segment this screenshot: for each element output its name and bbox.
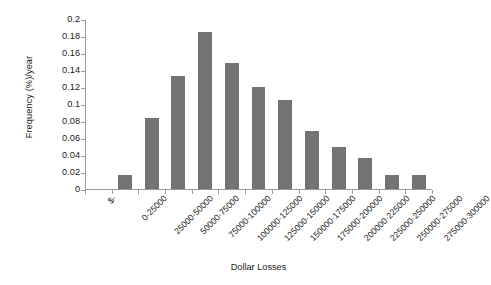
y-axis-tick-label: 0.18: [30, 32, 80, 41]
plot-area: [85, 20, 432, 190]
y-axis-tick-label: 0.16: [30, 49, 80, 58]
bar: [305, 131, 319, 189]
y-axis-tick-label: 0.14: [30, 66, 80, 75]
bar: [225, 63, 239, 189]
y-axis-tick-label: 0.08: [30, 117, 80, 126]
bar: [145, 118, 159, 189]
x-axis-title: Dollar Losses: [85, 262, 432, 272]
x-axis-tick-label: 0-25000: [140, 194, 169, 223]
bar: [252, 87, 266, 189]
bar: [385, 175, 399, 189]
bar: [278, 100, 292, 189]
bar: [412, 175, 426, 189]
x-axis-tick-labels: $-0-2500025000-5000050000-7500075000-100…: [85, 190, 465, 262]
y-axis-tick: [81, 105, 85, 106]
y-axis-tick-label: 0.02: [30, 168, 80, 177]
y-axis-tick: [81, 122, 85, 123]
bar: [198, 32, 212, 189]
y-axis-tick: [81, 37, 85, 38]
y-axis-tick: [81, 54, 85, 55]
y-axis-tick-label: 0.1: [30, 100, 80, 109]
bar: [332, 147, 346, 190]
bar-series: [85, 20, 432, 190]
y-axis-tick-label: 0.12: [30, 83, 80, 92]
y-axis-tick: [81, 139, 85, 140]
y-axis-tick: [81, 156, 85, 157]
y-axis-tick: [81, 88, 85, 89]
y-axis-tick-label: 0.2: [30, 15, 80, 24]
bar: [358, 158, 372, 189]
y-axis-tick-label: 0.04: [30, 151, 80, 160]
y-axis-tick-labels: 00.020.040.060.080.10.120.140.160.180.2: [30, 0, 80, 285]
y-axis-tick: [81, 173, 85, 174]
bar: [118, 175, 132, 189]
bar: [171, 76, 185, 189]
y-axis-tick: [81, 71, 85, 72]
y-axis-tick-label: 0.06: [30, 134, 80, 143]
y-axis-tick-label: 0: [30, 185, 80, 194]
y-axis-tick: [81, 20, 85, 21]
x-axis-tick-label: $-: [107, 194, 119, 206]
